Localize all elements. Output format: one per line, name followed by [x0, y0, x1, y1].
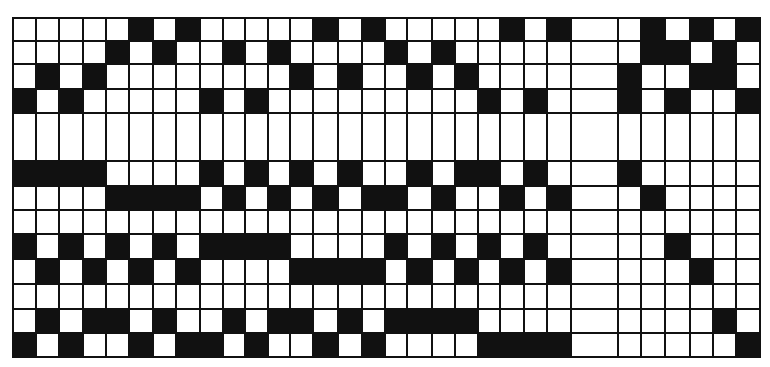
empty-cell — [37, 285, 58, 308]
empty-cell — [130, 235, 152, 258]
empty-cell — [201, 211, 222, 233]
filled-cell — [107, 42, 128, 63]
empty-cell — [433, 260, 454, 283]
empty-cell — [572, 187, 617, 209]
filled-cell — [339, 310, 361, 332]
filled-cell — [433, 187, 454, 209]
empty-cell — [363, 65, 384, 88]
empty-cell — [619, 19, 640, 40]
filled-cell — [14, 90, 35, 112]
filled-cell — [84, 310, 105, 332]
filled-cell — [154, 235, 175, 258]
empty-cell — [572, 260, 617, 283]
empty-cell — [737, 114, 759, 160]
empty-cell — [246, 187, 267, 209]
empty-cell — [456, 19, 477, 40]
empty-cell — [737, 235, 759, 258]
empty-cell — [386, 19, 406, 40]
empty-cell — [642, 235, 664, 258]
empty-cell — [246, 310, 267, 332]
empty-cell — [691, 162, 712, 185]
filled-cell — [691, 19, 712, 40]
empty-cell — [666, 334, 689, 356]
filled-cell — [691, 260, 712, 283]
filled-cell — [177, 334, 199, 356]
filled-cell — [246, 162, 267, 185]
empty-cell — [339, 334, 361, 356]
empty-cell — [408, 19, 431, 40]
filled-cell — [479, 235, 499, 258]
empty-cell — [269, 114, 289, 160]
filled-cell — [642, 187, 664, 209]
empty-cell — [84, 114, 105, 160]
empty-cell — [386, 334, 406, 356]
filled-cell — [14, 235, 35, 258]
empty-cell — [224, 19, 244, 40]
empty-cell — [666, 310, 689, 332]
empty-cell — [386, 211, 406, 233]
empty-cell — [691, 114, 712, 160]
filled-cell — [269, 235, 289, 258]
filled-cell — [314, 260, 337, 283]
empty-cell — [37, 42, 58, 63]
empty-cell — [201, 42, 222, 63]
empty-cell — [291, 90, 312, 112]
empty-cell — [291, 187, 312, 209]
filled-cell — [154, 42, 175, 63]
empty-cell — [548, 310, 570, 332]
filled-cell — [14, 162, 35, 185]
empty-cell — [246, 260, 267, 283]
filled-cell — [291, 65, 312, 88]
empty-cell — [363, 42, 384, 63]
empty-cell — [363, 310, 384, 332]
filled-cell — [339, 65, 361, 88]
filled-cell — [246, 90, 267, 112]
empty-cell — [269, 162, 289, 185]
filled-cell — [363, 187, 384, 209]
filled-cell — [201, 235, 222, 258]
empty-cell — [666, 19, 689, 40]
empty-cell — [339, 90, 361, 112]
filled-cell — [642, 42, 664, 63]
empty-cell — [666, 162, 689, 185]
empty-cell — [314, 42, 337, 63]
filled-cell — [60, 235, 82, 258]
empty-cell — [666, 285, 689, 308]
filled-cell — [37, 310, 58, 332]
empty-cell — [339, 211, 361, 233]
empty-cell — [291, 211, 312, 233]
empty-cell — [130, 285, 152, 308]
empty-cell — [177, 42, 199, 63]
empty-cell — [433, 162, 454, 185]
empty-cell — [339, 285, 361, 308]
empty-cell — [479, 310, 499, 332]
empty-cell — [691, 235, 712, 258]
filled-cell — [314, 187, 337, 209]
empty-cell — [154, 162, 175, 185]
empty-cell — [130, 65, 152, 88]
filled-cell — [619, 90, 640, 112]
filled-cell — [224, 42, 244, 63]
empty-cell — [60, 187, 82, 209]
empty-cell — [177, 162, 199, 185]
empty-cell — [714, 211, 735, 233]
empty-cell — [525, 285, 546, 308]
filled-cell — [363, 334, 384, 356]
filled-cell — [525, 235, 546, 258]
filled-cell — [269, 42, 289, 63]
empty-cell — [501, 310, 523, 332]
empty-cell — [666, 65, 689, 88]
empty-cell — [479, 19, 499, 40]
empty-cell — [619, 114, 640, 160]
empty-cell — [525, 19, 546, 40]
empty-cell — [37, 334, 58, 356]
empty-cell — [619, 235, 640, 258]
empty-cell — [642, 260, 664, 283]
empty-cell — [154, 211, 175, 233]
filled-cell — [386, 187, 406, 209]
empty-cell — [60, 19, 82, 40]
filled-cell — [107, 235, 128, 258]
empty-cell — [691, 334, 712, 356]
filled-cell — [525, 162, 546, 185]
empty-cell — [525, 114, 546, 160]
